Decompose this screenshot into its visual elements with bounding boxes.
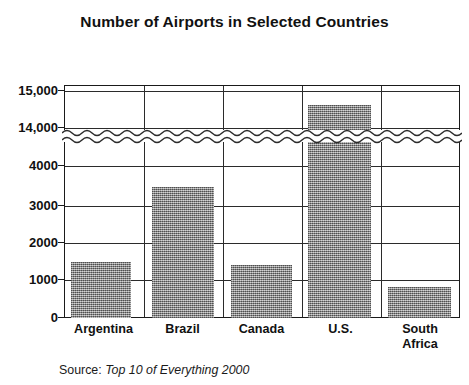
- x-tick-label-brazil: Brazil: [143, 322, 222, 337]
- x-tick-label-us-line1: U.S.: [301, 322, 380, 337]
- bar-chart-figure: Number of Airports in Selected Countries…: [0, 0, 469, 385]
- x-tick-label-argentina: Argentina: [64, 322, 143, 337]
- bar-argentina[interactable]: [71, 262, 131, 318]
- y-tick-label-0: 0: [2, 310, 58, 325]
- plot-area: [64, 85, 460, 318]
- source-work-title: Top 10 of Everything 2000: [105, 363, 249, 377]
- y-axis-labels: 15,000 14,000 4000 3000 2000 1000 0: [0, 0, 58, 385]
- y-tick-label-14000: 14,000: [2, 120, 58, 135]
- bar-brazil[interactable]: [152, 187, 214, 318]
- category-separator-3: [302, 86, 303, 317]
- x-tick-label-us: U.S.: [301, 322, 380, 337]
- category-separator-2: [223, 86, 224, 317]
- chart-title: Number of Airports in Selected Countries: [0, 13, 469, 31]
- source-note: Source: Top 10 of Everything 2000: [59, 363, 249, 377]
- gridline-15000: [65, 91, 459, 92]
- y-tick-label-4000: 4000: [2, 158, 58, 173]
- gridline-4000: [65, 166, 459, 167]
- x-tick-label-south-africa-line1: South: [380, 322, 460, 337]
- x-tick-label-canada: Canada: [222, 322, 301, 337]
- y-tick-label-3000: 3000: [2, 198, 58, 213]
- x-tick-label-argentina-line1: Argentina: [64, 322, 143, 337]
- x-tick-label-canada-line1: Canada: [222, 322, 301, 337]
- y-tick-label-2000: 2000: [2, 235, 58, 250]
- x-tick-label-brazil-line1: Brazil: [143, 322, 222, 337]
- category-separator-1: [144, 86, 145, 317]
- x-tick-label-south-africa: South Africa: [380, 322, 460, 352]
- y-tick-label-1000: 1000: [2, 272, 58, 287]
- x-tick-label-south-africa-line2: Africa: [380, 337, 460, 352]
- bar-us[interactable]: [308, 105, 371, 318]
- gridline-14000: [65, 128, 459, 129]
- x-axis-labels: Argentina Brazil Canada U.S. South Afric…: [64, 322, 460, 368]
- bar-canada[interactable]: [231, 265, 292, 318]
- gridline-3000: [65, 206, 459, 207]
- bar-south-africa[interactable]: [388, 287, 451, 318]
- category-separator-4: [381, 86, 382, 317]
- gridline-2000: [65, 243, 459, 244]
- y-tick-label-15000: 15,000: [2, 83, 58, 98]
- plot-inner: [65, 86, 459, 317]
- source-prefix: Source:: [59, 363, 105, 377]
